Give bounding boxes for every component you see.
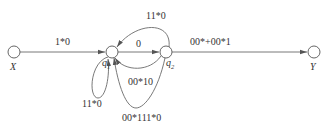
- edge-q1-q2: 0: [118, 38, 159, 52]
- edge-q2-q1-upper: 11*0: [117, 10, 169, 47]
- node-x: X: [8, 46, 20, 72]
- svg-text:q2: q2: [166, 57, 175, 70]
- state-diagram: 1*0 0 11*0 00*10 00*111*0 11*0 00*+00*1 …: [0, 0, 332, 129]
- edge-q2-q1-lower-inner: 00*10: [115, 56, 161, 87]
- node-y: Y: [308, 46, 320, 72]
- edge-label-q2-y: 00*+00*1: [190, 36, 231, 47]
- svg-text:X: X: [9, 61, 17, 72]
- edge-label-q2-q1-lower-inner: 00*10: [128, 76, 153, 87]
- edge-x-q1: 1*0: [20, 36, 105, 52]
- svg-text:Y: Y: [310, 61, 317, 72]
- edge-label-q1-self: 11*0: [82, 98, 102, 109]
- edge-label-q1-q2: 0: [136, 38, 141, 49]
- node-q2: q2: [160, 46, 175, 70]
- edge-q2-y: 00*+00*1: [172, 36, 307, 52]
- edge-label-q2-q1-upper: 11*0: [146, 10, 166, 21]
- svg-text:q1: q1: [102, 57, 110, 70]
- edge-label-q2-q1-lower-outer: 00*111*0: [122, 112, 161, 123]
- edge-label-x-q1: 1*0: [55, 36, 70, 47]
